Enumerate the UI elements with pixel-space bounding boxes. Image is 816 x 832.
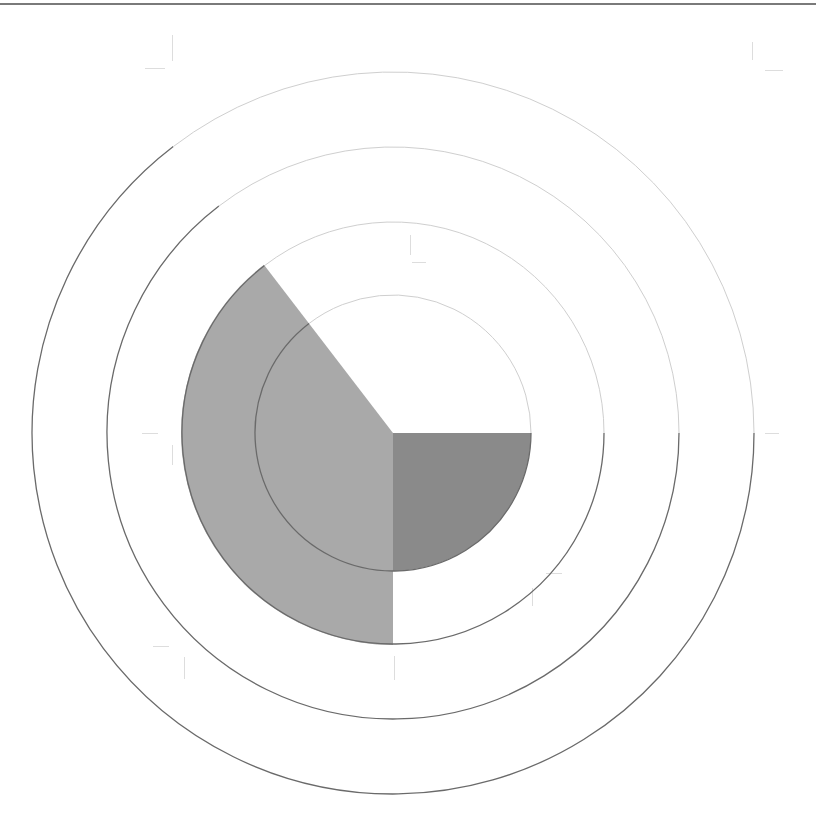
chart-sectors	[181, 265, 531, 645]
chart-grid-rings	[32, 72, 754, 794]
polar-area-chart	[0, 0, 816, 832]
sector-3-wedge	[181, 265, 393, 645]
sector-2-wedge	[393, 433, 531, 571]
